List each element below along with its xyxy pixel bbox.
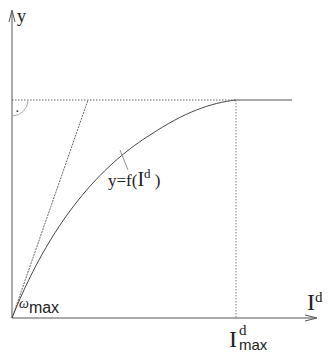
curve-f [12, 100, 236, 318]
curve-label: y=f(Id ) [108, 168, 161, 191]
origin-label: ωmax [19, 294, 59, 312]
x-axis-label: Id [307, 289, 323, 316]
tangent-line [12, 100, 88, 318]
y-axis-label: y [17, 6, 26, 27]
imax-label: Idmax [229, 326, 237, 353]
right-angle-dot: · [15, 104, 20, 120]
